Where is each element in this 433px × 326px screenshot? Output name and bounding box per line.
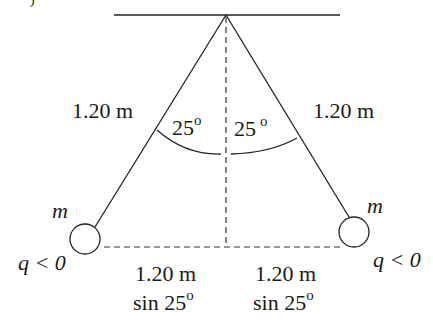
left-distance-line1: 1.20 m xyxy=(135,261,196,286)
right-mass-label: m xyxy=(367,193,383,218)
left-charge-label: q < 0 xyxy=(18,250,66,275)
left-charged-ball xyxy=(70,224,100,254)
partial-figure-label: ) xyxy=(30,0,35,8)
right-distance-line2: sin 25o xyxy=(253,287,314,315)
left-distance-line2: sin 25o xyxy=(133,287,194,315)
right-angle-label: 25o xyxy=(234,113,268,141)
pendulum-diagram: ) 1.20 m 1.20 m 25o 25o m m q < 0 q < 0 … xyxy=(0,0,433,326)
left-angle-label: 25o xyxy=(172,112,202,140)
left-string-length-label: 1.20 m xyxy=(72,98,133,123)
right-charged-ball xyxy=(339,217,369,247)
right-charge-label: q < 0 xyxy=(373,247,421,272)
right-distance-line1: 1.20 m xyxy=(255,261,316,286)
left-mass-label: m xyxy=(52,198,68,223)
right-string-length-label: 1.20 m xyxy=(313,98,374,123)
